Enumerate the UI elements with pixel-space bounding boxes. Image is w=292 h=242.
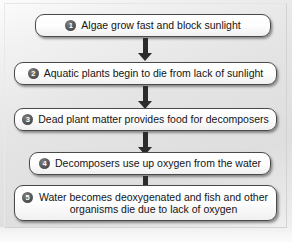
flow-step-5-text: Water becomes deoxygenated and fish and … (38, 191, 269, 216)
flow-step-5-line-1: Water becomes deoxygenated and fish and … (39, 191, 268, 203)
flowchart-figure: 1 Algae grow fast and block sunlight 2 A… (0, 0, 292, 242)
flow-step-4-content: 4 Decomposers use up oxygen from the wat… (37, 157, 263, 170)
flow-step-1-text: Algae grow fast and block sunlight (81, 19, 240, 32)
connector-shaft (143, 86, 148, 101)
flow-step-2: 2 Aquatic plants begin to die from lack … (14, 62, 277, 85)
flow-step-3-text: Dead plant matter provides food for deco… (38, 113, 269, 126)
flow-step-5-content: 5 Water becomes deoxygenated and fish an… (22, 191, 269, 216)
connector-shaft (143, 132, 148, 147)
step-number-badge-5: 5 (22, 192, 33, 203)
step-number-badge-3: 3 (22, 114, 33, 125)
connector-arrow-2-3 (138, 86, 153, 109)
flow-step-4: 4 Decomposers use up oxygen from the wat… (29, 152, 271, 175)
flow-step-2-text: Aquatic plants begin to die from lack of… (44, 67, 263, 80)
flow-step-1-content: 1 Algae grow fast and block sunlight (43, 19, 263, 32)
flowchart-canvas: 1 Algae grow fast and block sunlight 2 A… (0, 0, 292, 242)
step-number-badge-2: 2 (28, 68, 39, 79)
connector-arrow-1-2 (138, 38, 153, 61)
flow-step-5-line-2: organisms die due to lack of oxygen (70, 203, 238, 215)
connector-arrowhead (138, 53, 152, 61)
flow-step-1: 1 Algae grow fast and block sunlight (35, 14, 271, 37)
flow-step-3-content: 3 Dead plant matter provides food for de… (22, 113, 269, 126)
flow-step-3: 3 Dead plant matter provides food for de… (14, 108, 277, 131)
step-number-badge-1: 1 (65, 20, 76, 31)
flow-step-4-text: Decomposers use up oxygen from the water (55, 157, 261, 170)
step-number-badge-4: 4 (39, 158, 50, 169)
connector-shaft (143, 38, 148, 53)
flow-step-2-content: 2 Aquatic plants begin to die from lack … (22, 67, 269, 80)
flow-step-5: 5 Water becomes deoxygenated and fish an… (14, 185, 277, 221)
